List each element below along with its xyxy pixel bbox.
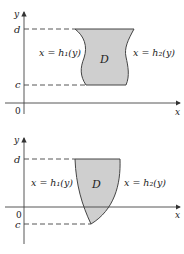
x-axis-label-top: x	[175, 107, 180, 117]
diagram-canvas: y x 0 d c x = h₁(y) x = h₂(y) D y x 0 d …	[0, 0, 184, 254]
figure-bottom: y x 0 d c x = h₁(y) x = h₂(y) D	[5, 135, 180, 244]
c-label-top: c	[15, 79, 21, 90]
h2-label-bottom: x = h₂(y)	[124, 177, 166, 188]
region-label-bottom: D	[91, 178, 101, 191]
region-label-top: D	[99, 53, 109, 66]
h1-label-bottom: x = h₁(y)	[31, 177, 73, 188]
y-axis-label-bottom: y	[13, 135, 20, 145]
h2-label-top: x = h₂(y)	[133, 47, 175, 58]
d-label-bottom: d	[14, 154, 20, 165]
region-d-bottom	[75, 159, 120, 224]
c-label-bottom: c	[15, 219, 21, 230]
x-axis-label-bottom: x	[175, 210, 180, 220]
origin-label-top: 0	[15, 106, 21, 116]
figure-top: y x 0 d c x = h₁(y) x = h₂(y) D	[5, 9, 180, 117]
d-label-top: d	[14, 24, 20, 35]
h1-label-top: x = h₁(y)	[39, 47, 81, 58]
y-axis-label-top: y	[13, 9, 20, 19]
